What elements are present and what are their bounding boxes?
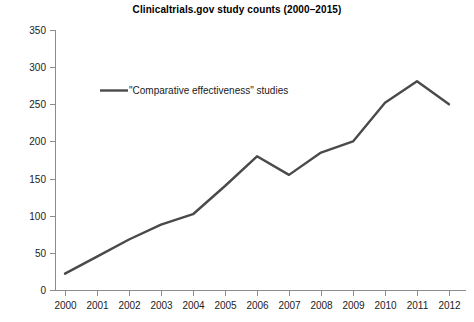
y-tick-label: 0 — [40, 285, 46, 296]
y-tick-label: 250 — [29, 99, 46, 110]
y-tick-label: 350 — [29, 25, 46, 36]
x-tick-label: 2001 — [86, 300, 109, 311]
chart-legend: "Comparative effectiveness" studies — [100, 85, 288, 96]
chart-container: Clinicaltrials.gov study counts (2000–20… — [0, 0, 474, 322]
data-line-comparative-effectiveness — [65, 81, 449, 273]
x-tick-label: 2010 — [374, 300, 397, 311]
y-tick-label: 100 — [29, 211, 46, 222]
x-tick-label: 2002 — [118, 300, 141, 311]
x-tick-label: 2012 — [438, 300, 461, 311]
y-tick-label: 50 — [35, 248, 47, 259]
legend-label: "Comparative effectiveness" studies — [129, 85, 288, 96]
x-tick-label: 2008 — [310, 300, 333, 311]
x-tick-label: 2000 — [54, 300, 77, 311]
y-tick-label: 200 — [29, 136, 46, 147]
x-tick-label: 2005 — [214, 300, 237, 311]
y-axis-tick-labels: 050100150200250300350 — [29, 25, 46, 296]
y-axis-ticks — [50, 31, 56, 291]
x-axis-tick-labels: 2000200120022003200420052006200720082009… — [54, 300, 461, 311]
x-tick-label: 2004 — [182, 300, 205, 311]
x-axis: 2000200120022003200420052006200720082009… — [54, 291, 466, 312]
y-tick-label: 150 — [29, 174, 46, 185]
x-tick-label: 2007 — [278, 300, 301, 311]
line-chart-plot: 050100150200250300350 200020012002200320… — [0, 0, 474, 322]
x-tick-label: 2009 — [342, 300, 365, 311]
y-axis: 050100150200250300350 — [29, 25, 55, 296]
x-axis-ticks — [66, 291, 450, 297]
y-tick-label: 300 — [29, 62, 46, 73]
data-series-group — [65, 81, 449, 273]
x-tick-label: 2003 — [150, 300, 173, 311]
x-tick-label: 2011 — [407, 300, 429, 311]
x-tick-label: 2006 — [246, 300, 269, 311]
